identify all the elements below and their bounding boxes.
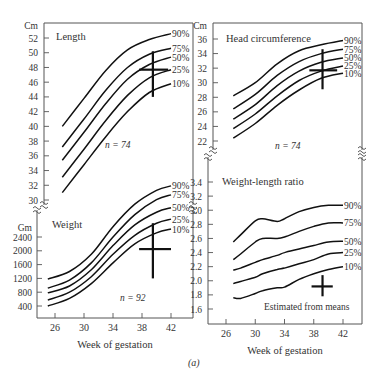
chart-panel-head: 2224262830323436CmHead circumference90%7… (193, 21, 366, 154)
percentile-label: 10% (172, 225, 190, 235)
y-axis: 2224262830323436Cm (193, 21, 218, 147)
y-tick-label: 1200 (13, 274, 32, 284)
sample-size-label: n = 74 (105, 140, 131, 150)
y-axis: 303234363840424446485052Cm (24, 21, 49, 206)
x-axis-title: Week of gestation (77, 339, 153, 350)
series-group: 90%75%50%25%10% (62, 29, 189, 193)
y-tick-label: 2.4 (190, 248, 202, 258)
figure-label: (a) (188, 357, 200, 368)
y-tick-label: 42 (29, 107, 39, 117)
percentile-label: 50% (172, 203, 190, 213)
y-tick-label: 48 (29, 63, 39, 73)
y-tick-label: 32 (198, 64, 208, 74)
y-tick-label: 1.6 (190, 305, 202, 315)
y-tick-label: 800 (18, 288, 33, 298)
y-tick-label: 2.6 (190, 234, 202, 244)
percentile-label: 10% (344, 69, 362, 79)
mean-cross-marker (139, 223, 171, 278)
percentile-curve-75 (62, 48, 171, 147)
y-tick-label: 3.4 (190, 178, 202, 188)
sample-size-label: n = 92 (120, 293, 146, 303)
y-tick-label: 38 (29, 137, 39, 147)
percentile-curve-10 (233, 267, 343, 299)
percentile-curve-10 (233, 73, 343, 138)
y-tick-label: 46 (29, 78, 39, 88)
series-group: 90%75%50%25%10% (233, 36, 361, 138)
percentile-label: 75% (172, 190, 190, 200)
y-tick-label: 26 (198, 107, 208, 117)
y-tick-label: 44 (29, 92, 39, 102)
y-unit-label: Gm (18, 223, 33, 233)
y-tick-label: 2000 (13, 246, 32, 256)
x-axis: 2630343842Week of gestation (221, 319, 348, 356)
x-tick-label: 30 (79, 322, 89, 333)
x-tick-label: 42 (166, 322, 176, 333)
annotation-text: Estimated from means (264, 302, 350, 312)
x-axis-title: Week of gestation (247, 345, 323, 356)
y-tick-label: 1.8 (190, 290, 202, 300)
y-tick-label: 34 (198, 49, 208, 59)
percentile-label: 90% (344, 201, 362, 211)
chart-panel-wlr: 1.61.82.02.22.42.62.83.03.23.42630343842… (190, 154, 366, 357)
y-tick-label: 3.2 (190, 192, 202, 202)
x-tick-label: 38 (309, 328, 319, 339)
y-tick-label: 22 (198, 137, 208, 147)
y-unit-label: Cm (193, 21, 207, 31)
y-tick-label: 2.8 (190, 220, 202, 230)
percentile-label: 10% (172, 79, 190, 89)
percentile-curve-75 (233, 49, 343, 109)
growth-percentile-figure: 303234363840424446485052CmLength90%75%50… (0, 0, 381, 390)
x-tick-label: 26 (50, 322, 60, 333)
mean-cross-marker (312, 275, 333, 296)
y-tick-label: 50 (29, 48, 39, 58)
x-axis: 2630343842Week of gestation (50, 313, 176, 350)
x-tick-label: 26 (221, 328, 231, 339)
series-group: 90%75%50%25%10% (48, 181, 190, 306)
y-tick-label: 2.0 (190, 276, 202, 286)
percentile-label: 25% (172, 65, 190, 75)
percentile-label: 50% (344, 237, 362, 247)
y-tick-label: 30 (29, 196, 39, 206)
y-tick-label: 40 (29, 122, 39, 132)
y-axis: 4008001200160020002400Gm (13, 223, 42, 312)
percentile-label: 25% (344, 248, 362, 258)
series-group: 90%75%50%25%10% (233, 201, 361, 299)
y-tick-label: 32 (29, 181, 39, 191)
percentile-label: 75% (344, 218, 362, 228)
y-tick-label: 400 (18, 302, 33, 312)
percentile-label: 90% (172, 29, 190, 39)
y-unit-label: Cm (24, 21, 38, 31)
y-tick-label: 34 (29, 166, 39, 176)
percentile-label: 10% (344, 262, 362, 272)
y-axis: 1.61.82.02.22.42.62.83.03.23.4 (190, 178, 213, 315)
panel-title: Head circumference (226, 33, 311, 44)
y-tick-label: 1600 (13, 260, 32, 270)
panel-title: Weight (52, 219, 82, 230)
x-tick-label: 34 (108, 322, 118, 333)
x-tick-label: 38 (137, 322, 147, 333)
panel-title: Weight-length ratio (222, 176, 304, 187)
mean-cross-marker (139, 51, 168, 97)
chart-panel-length: 303234363840424446485052CmLength90%75%50… (24, 21, 197, 209)
percentile-label: 25% (172, 215, 190, 225)
sample-size-label: n = 74 (275, 141, 301, 151)
percentile-curve-90 (62, 34, 171, 127)
y-tick-label: 36 (198, 35, 208, 45)
y-tick-label: 2.2 (190, 262, 202, 272)
x-tick-label: 34 (280, 328, 290, 339)
y-tick-label: 3.0 (190, 206, 202, 216)
x-tick-label: 42 (338, 328, 348, 339)
y-tick-label: 2400 (13, 233, 32, 243)
y-tick-label: 28 (198, 93, 208, 103)
panel-title: Length (56, 31, 86, 42)
percentile-label: 50% (172, 53, 190, 63)
y-tick-label: 30 (198, 78, 208, 88)
y-tick-label: 36 (29, 151, 39, 161)
x-tick-label: 30 (250, 328, 260, 339)
y-tick-label: 52 (29, 34, 39, 44)
percentile-curve-25 (233, 253, 343, 284)
y-tick-label: 24 (198, 122, 208, 132)
